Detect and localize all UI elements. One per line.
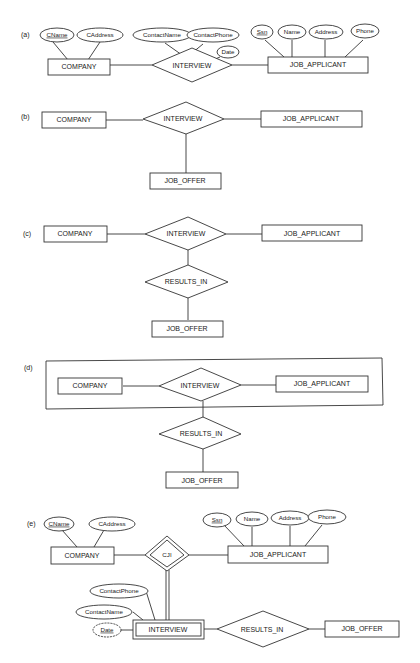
attr-ssn: Ssn	[203, 513, 231, 527]
svg-text:Date: Date	[221, 48, 235, 55]
svg-text:Name: Name	[244, 515, 261, 522]
svg-text:COMPANY: COMPANY	[73, 382, 108, 389]
svg-text:CAddress: CAddress	[98, 520, 125, 527]
diagram-e: (e) CName CAddress COMPANY	[27, 510, 399, 647]
attr-name: Name	[236, 512, 268, 526]
svg-text:INTERVIEW: INTERVIEW	[173, 62, 212, 69]
diagram-c: (c) COMPANY INTERVIEW JOB_APPLICANT RESU…	[23, 217, 362, 337]
entity-company: COMPANY	[58, 378, 122, 394]
svg-text:ContactPhone: ContactPhone	[193, 31, 233, 38]
svg-text:JOB_APPLICANT: JOB_APPLICANT	[294, 380, 351, 388]
svg-text:JOB_OFFER: JOB_OFFER	[164, 177, 205, 185]
svg-text:COMPANY: COMPANY	[65, 552, 100, 559]
attr-cname: CName	[44, 517, 74, 531]
svg-text:JOB_APPLICANT: JOB_APPLICANT	[250, 551, 307, 559]
attr-caddress: CAddress	[77, 28, 123, 42]
diagram-d: (d) COMPANY INTERVIEW JOB_APPLICANT RESU…	[24, 358, 383, 488]
attr-cname: CName	[40, 28, 74, 42]
attr-contactphone: ContactPhone	[187, 28, 239, 42]
entity-company: COMPANY	[48, 59, 110, 75]
entity-job-applicant: JOB_APPLICANT	[268, 57, 368, 73]
svg-text:RESULTS_IN: RESULTS_IN	[165, 278, 208, 286]
svg-text:INTERVIEW: INTERVIEW	[164, 115, 203, 122]
weak-entity-interview: INTERVIEW	[133, 620, 204, 639]
svg-text:INTERVIEW: INTERVIEW	[149, 626, 188, 633]
attr-contactphone: ContactPhone	[90, 584, 148, 598]
svg-text:ContactName: ContactName	[143, 31, 181, 38]
svg-text:COMPANY: COMPANY	[62, 63, 97, 70]
attr-date: Date	[217, 46, 239, 58]
svg-text:Ssn: Ssn	[257, 28, 268, 35]
entity-company: COMPANY	[44, 226, 107, 242]
relationship-interview: INTERVIEW	[143, 102, 224, 134]
svg-text:Address: Address	[279, 514, 302, 521]
attr-date: Date	[93, 623, 121, 637]
attr-address: Address	[271, 511, 309, 525]
entity-job-offer: JOB_OFFER	[152, 321, 223, 337]
svg-text:ContactName: ContactName	[85, 608, 123, 615]
svg-text:Ssn: Ssn	[212, 516, 223, 523]
diagram-b: (b) COMPANY INTERVIEW JOB_APPLICANT JOB_…	[21, 102, 362, 189]
attr-phone: Phone	[308, 510, 346, 524]
entity-job-offer: JOB_OFFER	[166, 472, 238, 488]
entity-job-offer: JOB_OFFER	[150, 173, 221, 189]
relationship-interview: INTERVIEW	[159, 368, 241, 401]
svg-text:RESULTS_IN: RESULTS_IN	[241, 626, 284, 634]
identifying-relationship-cji: CJI	[145, 536, 189, 571]
attr-caddress: CAddress	[89, 517, 135, 531]
entity-job-offer: JOB_OFFER	[325, 621, 399, 637]
attr-contactname: ContactName	[76, 605, 132, 619]
svg-text:Date: Date	[100, 626, 114, 633]
svg-text:COMPANY: COMPANY	[57, 116, 92, 123]
svg-text:Name: Name	[284, 28, 301, 35]
entity-job-applicant: JOB_APPLICANT	[228, 546, 328, 563]
svg-text:INTERVIEW: INTERVIEW	[181, 382, 220, 389]
svg-text:JOB_OFFER: JOB_OFFER	[181, 477, 222, 485]
attr-name: Name	[278, 25, 306, 39]
svg-text:Phone: Phone	[318, 513, 336, 520]
relationship-results-in: RESULTS_IN	[217, 611, 309, 647]
diagram-b-label: (b)	[21, 113, 30, 121]
diagram-d-label: (d)	[24, 364, 33, 372]
svg-text:CJI: CJI	[162, 551, 172, 558]
svg-text:Address: Address	[315, 28, 338, 35]
attr-phone: Phone	[351, 24, 379, 38]
svg-text:RESULTS_IN: RESULTS_IN	[180, 430, 223, 438]
svg-text:ContactPhone: ContactPhone	[99, 587, 139, 594]
svg-text:CAddress: CAddress	[86, 31, 113, 38]
diagram-a-label: (a)	[21, 31, 30, 39]
relationship-results-in: RESULTS_IN	[145, 265, 228, 298]
entity-job-applicant: JOB_APPLICANT	[261, 111, 362, 127]
svg-text:INTERVIEW: INTERVIEW	[167, 230, 206, 237]
diagram-e-label: (e)	[27, 520, 36, 528]
svg-text:CName: CName	[49, 520, 71, 527]
relationship-interview: INTERVIEW	[145, 217, 226, 250]
entity-company: COMPANY	[51, 547, 114, 564]
diagram-c-label: (c)	[23, 230, 31, 238]
svg-text:JOB_APPLICANT: JOB_APPLICANT	[283, 115, 340, 123]
svg-text:JOB_APPLICANT: JOB_APPLICANT	[290, 61, 347, 69]
svg-text:JOB_OFFER: JOB_OFFER	[166, 325, 207, 333]
svg-text:JOB_APPLICANT: JOB_APPLICANT	[284, 230, 341, 238]
diagram-a: (a) CName CAddress COMPANY ContactName	[21, 24, 379, 82]
svg-text:COMPANY: COMPANY	[58, 230, 93, 237]
er-diagrams: (a) CName CAddress COMPANY ContactName	[0, 0, 420, 663]
entity-job-applicant: JOB_APPLICANT	[262, 225, 362, 241]
svg-text:JOB_OFFER: JOB_OFFER	[341, 625, 382, 633]
entity-job-applicant: JOB_APPLICANT	[276, 376, 368, 392]
attr-ssn: Ssn	[251, 25, 273, 39]
relationship-results-in: RESULTS_IN	[159, 417, 241, 449]
attr-address: Address	[309, 25, 343, 39]
svg-text:Phone: Phone	[356, 27, 374, 34]
entity-company: COMPANY	[42, 112, 106, 128]
attr-contactname: ContactName	[133, 28, 191, 42]
svg-text:CName: CName	[47, 31, 69, 38]
